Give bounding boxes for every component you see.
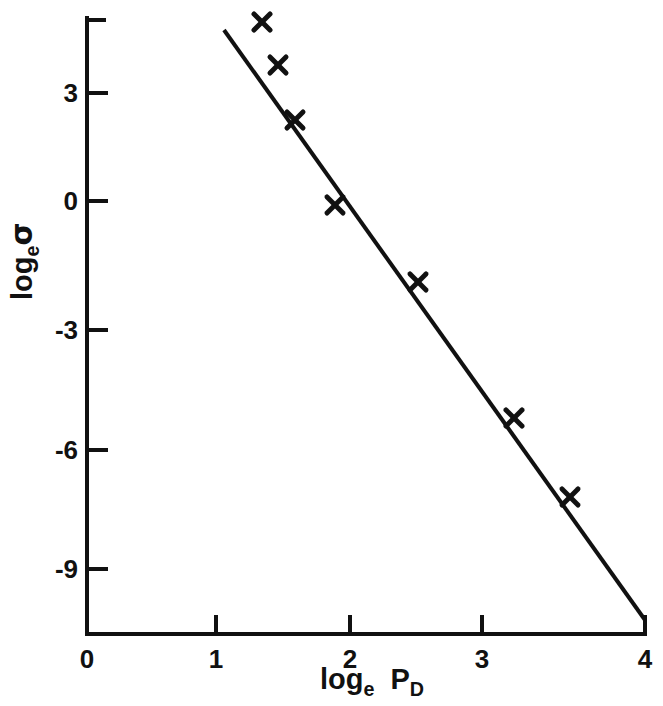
data-point <box>254 14 270 30</box>
x-axis-title-prefix: log <box>320 663 364 695</box>
xtick-label-4: 4 <box>638 646 652 672</box>
y-axis-title-subscript: e <box>21 246 43 257</box>
y-axis-title-prefix: log <box>6 257 38 301</box>
data-point <box>327 197 343 213</box>
data-point <box>410 274 426 290</box>
y-tick-marks <box>87 93 106 569</box>
data-point <box>506 410 522 426</box>
x-tick-marks <box>216 617 482 634</box>
y-axis-title-symbol: σ <box>5 222 39 245</box>
xtick-label-3: 3 <box>475 646 489 672</box>
xtick-label-1: 1 <box>209 646 223 672</box>
data-point <box>270 57 286 73</box>
data-point-markers <box>254 14 578 505</box>
ytick-label-0: 0 <box>38 188 78 214</box>
ytick-label-minus-6: -6 <box>28 437 78 463</box>
data-point <box>562 489 578 505</box>
chart-figure: 3 0 -3 -6 -9 0 1 2 3 4 logeσ loge PD <box>0 0 663 706</box>
x-axis-title-subscript-d: D <box>410 678 424 700</box>
ytick-label-minus-9: -9 <box>28 556 78 582</box>
x-axis-title-symbol: P <box>391 663 410 695</box>
plot-canvas <box>0 0 663 706</box>
fitted-line <box>224 30 645 620</box>
x-axis-title-subscript-e: e <box>363 678 374 700</box>
xtick-label-0: 0 <box>80 646 94 672</box>
ytick-label-3: 3 <box>38 80 78 106</box>
x-axis-title: loge PD <box>320 665 424 700</box>
ytick-label-minus-3: -3 <box>28 317 78 343</box>
y-axis-title: logeσ <box>8 222 43 300</box>
